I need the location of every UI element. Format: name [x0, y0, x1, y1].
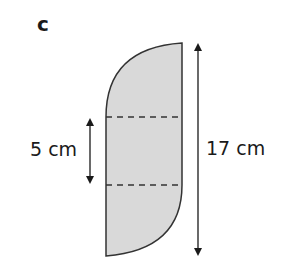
middle-height-label: 5 cm — [30, 140, 77, 159]
total-height-label: 17 cm — [206, 139, 265, 158]
composite-shape — [106, 43, 182, 256]
composite-shape-diagram — [0, 0, 290, 267]
